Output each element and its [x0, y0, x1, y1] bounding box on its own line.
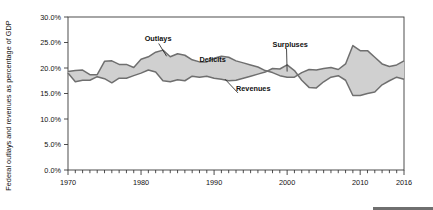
- y-tick-label: 15.0%: [40, 89, 61, 98]
- annotation-label: Surpluses: [273, 40, 308, 49]
- footer-rule: [373, 207, 433, 210]
- x-tick-label: 1990: [206, 178, 222, 187]
- y-tick-label: 0.0%: [44, 166, 61, 175]
- chart-canvas: 0.0%5.0%10.0%15.0%20.0%25.0%30.0%1970198…: [0, 0, 433, 210]
- x-tick-label: 2010: [352, 178, 368, 187]
- x-tick-label: 2016: [396, 178, 412, 187]
- annotation-label: Outlays: [145, 34, 172, 43]
- y-tick-label: 30.0%: [40, 13, 61, 22]
- annotation-label: Deficits: [199, 55, 225, 64]
- y-axis-title: Federal outlays and revenues as percenta…: [4, 20, 13, 190]
- x-tick-label: 2000: [279, 178, 295, 187]
- annotation-label: Revenues: [236, 84, 270, 93]
- x-tick-label: 1970: [60, 178, 76, 187]
- y-tick-label: 5.0%: [44, 140, 61, 149]
- y-tick-label: 10.0%: [40, 115, 61, 124]
- chart-figure: 0.0%5.0%10.0%15.0%20.0%25.0%30.0%1970198…: [0, 0, 433, 210]
- y-tick-label: 25.0%: [40, 38, 61, 47]
- x-tick-label: 1980: [133, 178, 149, 187]
- y-tick-label: 20.0%: [40, 64, 61, 73]
